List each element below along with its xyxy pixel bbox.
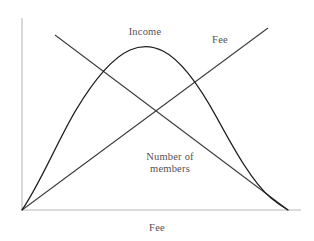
series-label-fee: Fee bbox=[205, 34, 235, 46]
x-axis-label: Fee bbox=[132, 222, 182, 234]
chart-figure: Income Fee Number of members Fee bbox=[0, 0, 314, 241]
series-label-number-of-members: Number of members bbox=[137, 151, 203, 174]
series-line-fee bbox=[22, 28, 268, 210]
series-label-income: Income bbox=[117, 26, 173, 38]
series-curve-income bbox=[22, 47, 288, 210]
series-line-number-of-members bbox=[55, 35, 288, 210]
axes-group bbox=[22, 18, 301, 210]
